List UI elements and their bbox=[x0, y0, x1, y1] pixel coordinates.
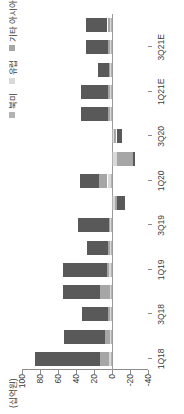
bar-segment bbox=[111, 330, 112, 344]
bar-segment bbox=[107, 263, 110, 277]
bar-segment bbox=[110, 63, 111, 77]
bar-segment bbox=[105, 330, 110, 344]
bar-segment bbox=[99, 174, 107, 188]
x-axis-tick-label: 1Q21E bbox=[156, 79, 166, 105]
bar-segment bbox=[109, 63, 110, 77]
bar-group[interactable] bbox=[22, 148, 148, 170]
bar-segment bbox=[110, 285, 111, 299]
x-axis-tick-label: 3Q20 bbox=[156, 126, 166, 147]
plot-area bbox=[22, 14, 148, 370]
bar-segment bbox=[110, 241, 111, 255]
bar-segment bbox=[111, 63, 112, 77]
x-axis-tick-mark bbox=[148, 46, 152, 47]
x-axis-tick-label: 3Q19 bbox=[156, 215, 166, 236]
bar-segment bbox=[117, 196, 124, 210]
bar-group[interactable] bbox=[22, 192, 148, 214]
y-axis-tick-label: 40 bbox=[71, 374, 81, 383]
bar-segment bbox=[117, 130, 122, 144]
x-axis-tick-mark bbox=[148, 135, 152, 136]
bar-segment bbox=[81, 107, 108, 121]
bar-group[interactable] bbox=[22, 14, 148, 36]
bar-segment bbox=[108, 241, 110, 255]
bar-segment bbox=[35, 352, 101, 366]
y-axis-tick-label: -40 bbox=[143, 374, 153, 386]
bar-segment bbox=[110, 107, 111, 121]
bar-group[interactable] bbox=[22, 103, 148, 125]
bar-segment bbox=[86, 41, 109, 55]
bar-segment bbox=[80, 174, 100, 188]
bar-group[interactable] bbox=[22, 214, 148, 236]
x-axis-tick-label: 1Q18 bbox=[156, 348, 166, 369]
bar-segment bbox=[63, 263, 107, 277]
x-axis-tick-mark bbox=[148, 358, 152, 359]
bar-segment bbox=[110, 330, 111, 344]
bar-segment bbox=[108, 41, 110, 55]
y-axis-tick-label: 0 bbox=[107, 374, 117, 379]
bar-segment bbox=[78, 219, 110, 233]
bar-segment bbox=[109, 219, 110, 233]
y-axis-tick-label: 20 bbox=[89, 374, 99, 383]
bar-segment bbox=[111, 241, 112, 255]
x-axis-tick-label: 1Q20 bbox=[156, 170, 166, 191]
bar-group[interactable] bbox=[22, 36, 148, 58]
bar-segment bbox=[108, 18, 111, 32]
bar-segment bbox=[86, 18, 108, 32]
bar-segment bbox=[63, 285, 100, 299]
bar-segment bbox=[111, 285, 112, 299]
chart-legend: 북미유럽기타 아시아중국 bbox=[6, 0, 18, 118]
bar-segment bbox=[117, 152, 132, 166]
x-axis-tick-mark bbox=[148, 313, 152, 314]
y-axis-tick-label: 80 bbox=[35, 374, 45, 383]
bar-segment bbox=[133, 152, 136, 166]
x-axis-tick-mark bbox=[148, 224, 152, 225]
legend-swatch-icon bbox=[9, 78, 15, 84]
x-axis-tick-mark bbox=[148, 91, 152, 92]
bar-segment bbox=[81, 85, 109, 99]
bar-group[interactable] bbox=[22, 281, 148, 303]
legend-item-label: 유럽 bbox=[6, 60, 18, 76]
bar-segment bbox=[82, 308, 108, 322]
bar-segment bbox=[111, 41, 112, 55]
bar-segment bbox=[111, 107, 112, 121]
bar-segment bbox=[100, 352, 109, 366]
bar-segment bbox=[111, 219, 112, 233]
bar-segment bbox=[110, 85, 111, 99]
x-axis-tick-label: 1Q19 bbox=[156, 259, 166, 280]
bar-segment bbox=[110, 219, 111, 233]
x-axis-tick-mark bbox=[148, 180, 152, 181]
chart-figure: (십억원) 북미유럽기타 아시아중국 100806040200-20-401Q1… bbox=[0, 0, 184, 414]
bar-segment bbox=[108, 107, 110, 121]
bar-group[interactable] bbox=[22, 348, 148, 370]
y-axis-tick-label: 60 bbox=[53, 374, 63, 383]
bar-group[interactable] bbox=[22, 326, 148, 348]
legend-item: 북미 bbox=[6, 93, 18, 118]
bar-group[interactable] bbox=[22, 125, 148, 147]
bar-group[interactable] bbox=[22, 259, 148, 281]
bar-group[interactable] bbox=[22, 237, 148, 259]
bar-segment bbox=[100, 285, 110, 299]
bar-segment bbox=[111, 308, 112, 322]
bar-segment bbox=[110, 41, 111, 55]
bar-segment bbox=[108, 174, 112, 188]
bar-segment bbox=[109, 263, 111, 277]
legend-item: 기타 아시아 bbox=[6, 1, 18, 51]
legend-swatch-icon bbox=[9, 112, 15, 118]
bar-segment bbox=[87, 241, 109, 255]
bar-segment bbox=[111, 85, 112, 99]
bar-segment bbox=[109, 352, 111, 366]
bar-segment bbox=[111, 174, 112, 188]
legend-swatch-icon bbox=[9, 45, 15, 51]
bar-segment bbox=[64, 330, 105, 344]
bar-group[interactable] bbox=[22, 59, 148, 81]
bar-group[interactable] bbox=[22, 303, 148, 325]
bar-group[interactable] bbox=[22, 81, 148, 103]
bar-segment bbox=[98, 63, 110, 77]
bar-segment bbox=[108, 308, 110, 322]
y-axis-tick-label: -20 bbox=[125, 374, 135, 386]
bar-group[interactable] bbox=[22, 170, 148, 192]
legend-item: 유럽 bbox=[6, 60, 18, 85]
legend-item-label: 북미 bbox=[6, 93, 18, 109]
bar-segment bbox=[108, 85, 110, 99]
bar-segment bbox=[110, 308, 111, 322]
y-axis-tick-label: 100 bbox=[17, 374, 27, 388]
